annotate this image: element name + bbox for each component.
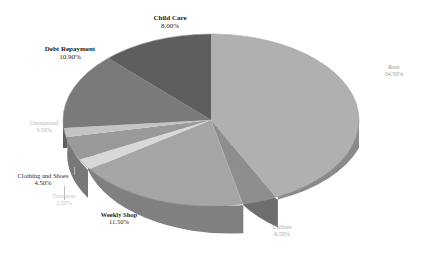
label-utilities-pct: 6.50% (254, 231, 310, 238)
label-rent: Rent 34.50% (372, 64, 416, 78)
label-rent-name: Rent (372, 64, 416, 71)
label-debt-repayment: Debt Repayment 10.90% (26, 45, 114, 61)
label-utilities: Utilities 6.50% (254, 224, 310, 238)
label-child-care-name: Child Care (128, 14, 212, 22)
label-clothing-and-shoes: Clothing and Shoes 4.50% (6, 172, 80, 187)
label-unexpected: Unexpected 3.50% (12, 120, 76, 134)
label-weekly-shop-name: Weekly Shop (84, 211, 154, 218)
label-clothing-and-shoes-name: Clothing and Shoes (6, 172, 80, 179)
label-unexpected-pct: 3.50% (12, 127, 76, 134)
label-transport: Transport 2.50% (38, 193, 90, 207)
label-child-care: Child Care 8.00% (128, 14, 212, 30)
label-weekly-shop: Weekly Shop 11.50% (84, 211, 154, 226)
label-unexpected-name: Unexpected (12, 120, 76, 127)
label-transport-pct: 2.50% (38, 200, 90, 207)
label-child-care-pct: 8.00% (128, 22, 212, 30)
label-rent-pct: 34.50% (372, 71, 416, 78)
label-clothing-and-shoes-pct: 4.50% (6, 179, 80, 186)
label-utilities-name: Utilities (254, 224, 310, 231)
pie-chart: Child Care 8.00% Debt Repayment 10.90% R… (0, 0, 422, 260)
label-debt-repayment-name: Debt Repayment (26, 45, 114, 53)
label-debt-repayment-pct: 10.90% (26, 53, 114, 61)
label-transport-name: Transport (38, 193, 90, 200)
label-weekly-shop-pct: 11.50% (84, 218, 154, 225)
